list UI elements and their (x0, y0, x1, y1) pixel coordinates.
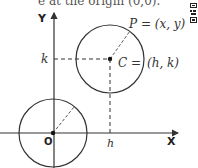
k-label: k (41, 52, 48, 66)
y-axis-label: Y (37, 12, 47, 25)
qr-code-icon (189, 2, 198, 24)
origin-radius (53, 107, 74, 133)
origin-point (51, 131, 55, 135)
x-axis-label: X (167, 135, 176, 148)
h-label: h (107, 137, 114, 150)
point-p-label: P = (x, y) (128, 17, 186, 31)
center-c-label: C = (118, 56, 141, 70)
origin-label: O (44, 136, 53, 147)
circle-diagram: Y X O k h P = (x, y) C = (h, k) (0, 0, 198, 168)
center-radius (110, 31, 130, 59)
center-coords-label: (h, k) (147, 56, 179, 70)
